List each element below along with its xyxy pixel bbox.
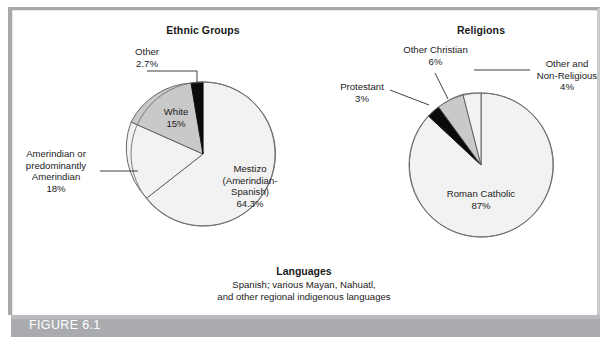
figure-number-label: FIGURE 6.1 — [29, 318, 101, 332]
pie-religions — [390, 70, 553, 237]
figure-container: Ethnic Groups Religions — [0, 0, 608, 345]
label-mestizo: Mestizo (Amerindian- Spanish) 64.3% — [204, 163, 296, 209]
label-other-christian: Other Christian 6% — [383, 44, 488, 67]
label-white: White 15% — [141, 106, 211, 129]
label-protestant: Protestant 3% — [330, 81, 394, 104]
languages-title: Languages — [154, 265, 454, 277]
leader-line-other-christian — [435, 73, 448, 99]
languages-body: Spanish; various Mayan, Nahuatl, and oth… — [154, 279, 454, 303]
label-other-nonreligious: Other and Non-Religious 4% — [530, 58, 604, 93]
label-roman-catholic: Roman Catholic 87% — [421, 188, 541, 211]
label-amerindian: Amerindian or predominantly Amerindian 1… — [10, 148, 102, 194]
figure-caption-bar: FIGURE 6.1 — [11, 315, 600, 337]
leader-line-protestant — [390, 90, 429, 105]
label-other: Other 2.7% — [97, 46, 197, 69]
